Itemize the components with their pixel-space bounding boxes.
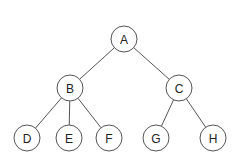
- node-e: E: [56, 125, 82, 151]
- node-label: H: [209, 132, 218, 146]
- node-label: G: [151, 132, 160, 146]
- node-b: B: [57, 75, 83, 101]
- edge-b-f: [78, 98, 101, 127]
- nodes-layer: ABCDEFGH: [14, 26, 226, 151]
- node-d: D: [14, 125, 40, 151]
- node-label: F: [105, 132, 112, 146]
- edge-a-c: [134, 48, 170, 80]
- node-g: G: [143, 125, 169, 151]
- node-c: C: [166, 75, 192, 101]
- node-label: A: [120, 33, 128, 47]
- node-h: H: [200, 125, 226, 151]
- edge-b-d: [35, 98, 61, 128]
- node-a: A: [111, 26, 137, 52]
- node-label: D: [23, 132, 32, 146]
- edge-a-b: [80, 48, 115, 80]
- node-f: F: [96, 125, 122, 151]
- node-label: E: [65, 132, 73, 146]
- edge-c-h: [186, 99, 205, 127]
- node-label: B: [66, 82, 74, 96]
- tree-diagram: ABCDEFGH: [0, 0, 239, 161]
- edge-c-g: [161, 100, 173, 126]
- node-label: C: [175, 82, 184, 96]
